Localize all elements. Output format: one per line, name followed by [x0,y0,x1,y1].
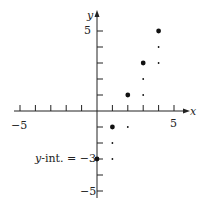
x-max-label: 5 [170,117,177,130]
x-axis-label: x [190,105,197,118]
x-min-label: −5 [11,119,27,132]
yint-text: -int. = −3 [41,152,96,165]
y-max-label: 5 [84,24,91,37]
line-graph: x y −5 5 5 −5 y-int. = −3 [0,0,205,203]
data-points [95,29,161,162]
y-axis-label: y [86,9,94,22]
y-intercept-annotation: y-int. = −3 [34,152,96,165]
y-min-label: −5 [80,185,96,198]
axes [14,10,190,198]
